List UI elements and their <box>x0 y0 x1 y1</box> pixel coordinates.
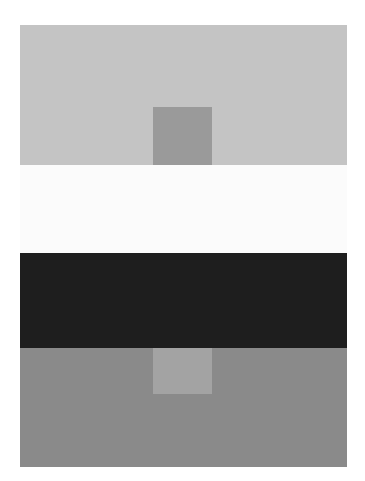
dark-band <box>20 253 347 348</box>
lower-patch <box>153 348 212 394</box>
figure-canvas: Simultaneous contrast figure <box>0 0 365 481</box>
white-band <box>20 165 347 253</box>
composition-plate <box>20 25 347 467</box>
upper-patch <box>153 107 212 165</box>
